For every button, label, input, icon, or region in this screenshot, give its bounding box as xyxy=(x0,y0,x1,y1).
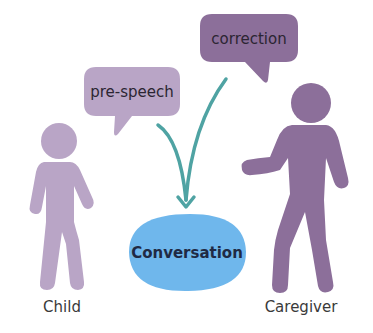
conversation-node: Conversation xyxy=(129,214,246,291)
arrow-from-pre-speech xyxy=(158,125,186,200)
caregiver-figure xyxy=(242,83,349,293)
pre-speech-bubble: pre-speech xyxy=(84,67,180,136)
pre-speech-label: pre-speech xyxy=(90,83,174,101)
diagram-canvas: pre-speech correction Conversation Child… xyxy=(0,0,373,333)
child-figure xyxy=(30,123,94,290)
caregiver-body xyxy=(242,125,349,293)
correction-label: correction xyxy=(211,30,286,48)
arrow-from-correction xyxy=(186,79,226,200)
child-label: Child xyxy=(43,298,81,316)
correction-bubble: correction xyxy=(200,14,298,83)
conversation-label: Conversation xyxy=(131,244,243,262)
child-head xyxy=(41,123,77,159)
caregiver-label: Caregiver xyxy=(265,298,339,316)
caregiver-head xyxy=(291,83,331,123)
child-body xyxy=(30,162,94,290)
